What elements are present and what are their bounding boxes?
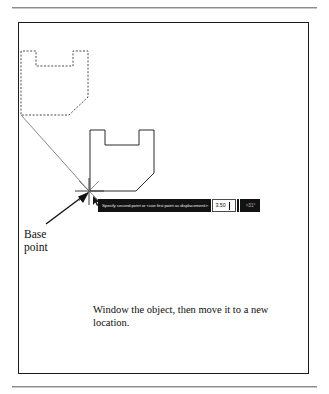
dynamic-input-distance-field[interactable]: 3.50 xyxy=(212,199,236,212)
figure-page: Base point Specify second point or <use … xyxy=(0,0,329,394)
dynamic-input-tooltip[interactable]: Specify second point or <use first point… xyxy=(98,199,260,212)
base-point-label: Base point xyxy=(24,228,48,253)
dynamic-input-angle-field[interactable]: <31° xyxy=(240,199,260,212)
figure-caption: Window the object, then move it to a new… xyxy=(93,303,283,329)
dynamic-input-separator xyxy=(237,199,239,212)
dynamic-input-prompt: Specify second point or <use first point… xyxy=(98,199,211,212)
page-rule-top xyxy=(12,7,317,9)
page-rule-bottom xyxy=(12,386,317,388)
